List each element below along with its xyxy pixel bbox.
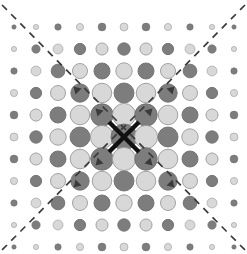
lattice-dot-dark [138,195,154,211]
lattice-dot-light [90,125,113,148]
lattice-dot-light [185,44,195,54]
lattice-dot-dark [94,63,110,79]
lattice-dot-dark [70,127,90,147]
lattice-dot-dark [32,45,40,53]
lattice-dot-dark [230,155,238,163]
lattice-dot-light [31,66,41,76]
lattice-dot-light [158,105,178,125]
lattice-dot-light [53,44,63,54]
lattice-dot-dark [74,219,85,230]
lattice-dot-dark [232,25,236,29]
lattice-dot-light [182,129,198,145]
lattice-dot-light [30,109,42,121]
lattice-dot-dark [142,23,150,31]
lattice-dot-dark [187,24,193,30]
lattice-dot-dark [114,171,134,191]
lattice-dot-light [50,173,65,188]
lattice-dot-dark [158,127,178,147]
lattice-dot-dark [206,87,217,98]
lattice-dot-light [116,63,132,79]
lattice-dot-dark [230,111,238,119]
lattice-dot-dark [138,63,154,79]
lattice-dot-light [164,23,171,30]
lattice-dot-dark [182,151,198,167]
lattice-dot-dark [74,43,85,54]
lattice-dot-light [209,24,214,29]
lattice-dot-dark [30,175,41,186]
lattice-dot-light [10,133,18,141]
lattice-dot-dark [231,68,237,74]
lattice-dot-dark [11,68,17,74]
lattice-dot-light [10,177,17,184]
lattice-dot-dark [231,200,237,206]
lattice-dot-light [96,219,108,231]
lattice-dot-light [209,244,214,249]
lattice-dot-light [164,243,171,250]
lattice-dot-dark [94,195,110,211]
lattice-dot-light [120,23,128,31]
lattice-dot-dark [55,24,61,30]
lattice-dot-dark [208,45,216,53]
lattice-dot-light [70,149,90,169]
lattice-dot-light [11,222,16,227]
lattice-dot-dark [183,64,197,78]
lattice-dot-light [182,85,197,100]
lattice-dot-light [30,153,42,165]
lattice-dot-light [182,173,197,188]
lattice-dot-dark [142,243,150,251]
lattice-dot-dark [51,196,65,210]
lattice-dot-light [231,46,236,51]
lattice-dot-light [207,66,217,76]
lattice-dot-light [160,195,175,210]
lattice-dot-light [231,222,236,227]
lattice-dot-light [92,171,112,191]
lattice-dot-light [230,177,237,184]
lattice-dot-dark [55,244,61,250]
lattice-dot-light [134,125,157,148]
lattice-dot-light [112,103,135,126]
lattice-dot-dark [183,196,197,210]
lattice-dot-light [50,85,65,100]
lattice-dot-dark [187,244,193,250]
lattice-dot-dark [182,107,198,123]
lattice-dot-dark [162,219,173,230]
lattice-dot-dark [11,200,17,206]
lattice-dot-light [140,219,152,231]
lattice-dot-dark [32,221,40,229]
lattice-dot-dark [118,219,130,231]
lattice-dot-light [50,129,66,145]
lattice-dot-light [11,46,16,51]
lattice-dot-light [230,89,237,96]
lattice-dot-dark [206,131,218,143]
lattice-dot-dark [10,155,18,163]
lattice-dot-dark [30,87,41,98]
lattice-dot-light [70,105,90,125]
lattice-dot-light [206,153,218,165]
lattice-dot-light [53,220,63,230]
lattice-dot-dark [208,221,216,229]
lattice-dot-light [207,198,217,208]
lattice-dot-light [76,23,83,30]
lattice-dot-dark [206,175,217,186]
lattice-dot-light [160,63,175,78]
lattice-dot-dark [98,23,106,31]
lattice-dot-dark [10,111,18,119]
lattice-dot-dark [12,245,16,249]
lattice-dot-dark [12,25,16,29]
lattice-dot-light [33,24,38,29]
lattice-dot-light [112,147,135,170]
lattice-dot-light [96,43,108,55]
lattice-dot-dark [51,64,65,78]
lattice-dot-dark [30,131,42,143]
lattice-dot-dark [98,243,106,251]
lattice-dot-dark [232,245,236,249]
lattice-dot-dark [118,43,130,55]
lattice-dot-light [72,63,87,78]
lattice-dot-light [185,220,195,230]
lattice-dot-light [206,109,218,121]
figure-root: Symmetric dot lattice with diagonal mirr… [0,0,247,254]
lattice-dot-dark [114,83,134,103]
lattice-dot-dark [162,43,173,54]
lattice-dot-light [116,195,132,211]
lattice-dot-light [230,133,238,141]
